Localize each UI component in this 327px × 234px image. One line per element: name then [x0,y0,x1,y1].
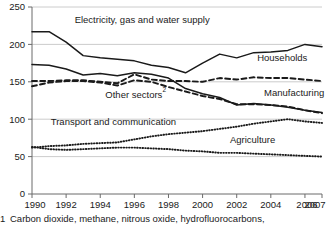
x-tick-label: 1990 [24,199,45,210]
series-label-superscript: 2 [162,86,166,93]
y-tick-label: 100 [9,114,25,125]
y-tick-label: 200 [9,39,25,50]
x-tick-label: 2004 [260,199,281,210]
x-tick-label: 1992 [56,199,77,210]
series-agriculture [32,147,322,157]
x-tick-label: 2000 [192,199,213,210]
x-tick-label: 1996 [124,199,145,210]
series-label: Agriculture [230,134,275,145]
x-tick-label: 2002 [226,199,247,210]
series-label: Electricity, gas and water supply [75,14,210,25]
line-chart-svg: 050100150200250 199019921994199619982000… [0,0,327,210]
footnote: 1Carbon dioxide, methane, nitrous oxide,… [0,212,327,225]
series-label: Other sectors2 [105,86,166,101]
y-tick-label: 50 [14,151,25,162]
series-label: Manufacturing [264,87,324,98]
y-axis-ticks: 050100150200250 [9,1,32,199]
x-axis-ticks: 1990199219941996199820002002200420062007 [24,194,325,210]
footnote-marker: 1 [0,212,10,225]
footnote-text: Carbon dioxide, methane, nitrous oxide, … [10,213,265,224]
axis-lines [32,7,322,194]
x-tick-label: 1998 [158,199,179,210]
x-tick-label: 2007 [304,199,325,210]
chart-figure: 050100150200250 199019921994199619982000… [0,0,327,234]
y-tick-label: 0 [20,188,25,199]
series-label: Transport and communication [51,116,176,127]
y-tick-label: 150 [9,76,25,87]
series-label: Households [257,52,307,63]
series-labels: Electricity, gas and water supplyHouseho… [51,14,324,145]
chart-plot-area: 050100150200250 199019921994199619982000… [0,0,327,210]
y-tick-label: 250 [9,1,25,12]
x-tick-label: 1994 [90,199,111,210]
